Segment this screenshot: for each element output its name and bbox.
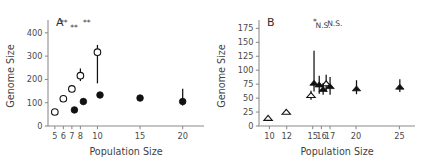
y-tick-label: 400 bbox=[27, 28, 43, 38]
y-tick-label: 200 bbox=[27, 74, 43, 84]
significance-annotation: ** bbox=[83, 18, 91, 27]
panel-a-axes: 0100200300400 5678101520 bbox=[27, 20, 204, 141]
x-tick-label: 20 bbox=[177, 131, 187, 141]
data-point-circle-filled bbox=[71, 107, 78, 114]
panel-b: 0255075100125150175 10121516172025 *N.S.… bbox=[211, 0, 421, 161]
x-tick-label: 6 bbox=[61, 131, 66, 141]
y-tick-label: 0 bbox=[37, 121, 42, 131]
panel-a: 0100200300400 5678101520 ****** A Popula… bbox=[0, 0, 210, 161]
panel-b-x-ticks: 10121516172025 bbox=[264, 126, 404, 141]
data-point-circle-filled bbox=[80, 98, 87, 105]
y-tick-label: 100 bbox=[238, 65, 254, 75]
panel-a-significance-markers: ****** bbox=[60, 18, 91, 32]
data-point-circle-filled bbox=[137, 95, 144, 102]
data-point-triangle-open bbox=[307, 93, 315, 98]
panel-b-data-points bbox=[264, 51, 404, 121]
y-tick-label: 150 bbox=[238, 37, 254, 47]
y-tick-label: 175 bbox=[238, 23, 254, 33]
panel-a-y-axis-title: Genome Size bbox=[5, 44, 16, 107]
significance-annotation: N.S. bbox=[327, 19, 342, 28]
x-tick-label: 8 bbox=[78, 131, 83, 141]
data-point-circle-open bbox=[60, 95, 67, 102]
y-tick-label: 300 bbox=[27, 51, 43, 61]
y-tick-label: 25 bbox=[243, 107, 253, 117]
x-tick-label: 20 bbox=[351, 131, 361, 141]
panel-a-x-ticks: 5678101520 bbox=[52, 126, 188, 141]
data-point-circle-open bbox=[77, 72, 84, 79]
y-tick-label: 100 bbox=[27, 98, 43, 108]
panel-b-letter: B bbox=[267, 16, 275, 29]
panel-b-x-axis-title: Population Size bbox=[300, 146, 373, 157]
x-tick-label: 7 bbox=[69, 131, 74, 141]
data-point-circle-open bbox=[52, 109, 59, 116]
data-point-circle-open bbox=[69, 86, 76, 93]
data-point-circle-open bbox=[94, 49, 101, 56]
data-point-triangle-open bbox=[264, 115, 272, 120]
figure-root: 0100200300400 5678101520 ****** A Popula… bbox=[0, 0, 421, 161]
y-tick-label: 75 bbox=[243, 79, 253, 89]
x-tick-label: 15 bbox=[135, 131, 145, 141]
y-tick-label: 125 bbox=[238, 51, 254, 61]
data-point-triangle-open bbox=[282, 109, 290, 114]
panel-b-y-ticks: 0255075100125150175 bbox=[238, 23, 259, 131]
x-tick-label: 5 bbox=[52, 131, 57, 141]
y-tick-label: 0 bbox=[248, 121, 253, 131]
x-tick-label: 10 bbox=[92, 131, 102, 141]
x-tick-label: 25 bbox=[394, 131, 404, 141]
panel-b-significance-markers: *N.S.N.S. bbox=[313, 17, 343, 29]
panel-a-letter: A bbox=[56, 16, 64, 29]
significance-annotation: ** bbox=[70, 23, 78, 32]
panel-a-data-points bbox=[52, 45, 186, 115]
data-point-circle-filled bbox=[179, 98, 186, 105]
panel-a-x-axis-title: Population Size bbox=[89, 146, 162, 157]
panel-b-y-axis-title: Genome Size bbox=[216, 44, 227, 107]
panel-a-y-ticks: 0100200300400 bbox=[27, 28, 48, 131]
y-tick-label: 50 bbox=[243, 93, 253, 103]
panel-b-spines bbox=[259, 20, 415, 126]
x-tick-label: 10 bbox=[264, 131, 274, 141]
x-tick-label: 17 bbox=[325, 131, 335, 141]
data-point-circle-filled bbox=[97, 92, 104, 99]
panel-a-canvas: 0100200300400 5678101520 ****** A Popula… bbox=[0, 0, 210, 161]
data-point-triangle-filled bbox=[352, 86, 360, 91]
data-point-triangle-filled bbox=[396, 84, 404, 89]
panel-b-canvas: 0255075100125150175 10121516172025 *N.S.… bbox=[211, 0, 421, 161]
x-tick-label: 12 bbox=[282, 131, 292, 141]
